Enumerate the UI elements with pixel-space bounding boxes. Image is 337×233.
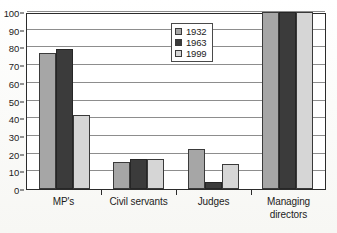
bar-1999-managing-directors: [296, 12, 313, 189]
legend-swatch-1999: [175, 50, 182, 57]
y-axis: 1009080706050403020100: [0, 13, 24, 190]
group-tick: [176, 190, 177, 195]
legend-swatch-1932: [175, 28, 182, 35]
y-tick-label: 30: [9, 131, 19, 142]
x-category-label-line1: Civil servants: [109, 196, 167, 207]
y-tick-label: 100: [4, 8, 19, 19]
bar-1999-judges: [222, 164, 239, 189]
y-tick-label: 20: [9, 149, 19, 160]
bar-1932-managing-directors: [262, 12, 279, 189]
y-tick-mark: [20, 190, 24, 191]
y-tick-mark: [20, 48, 24, 49]
y-tick-label: 80: [9, 43, 19, 54]
bar-1963-civil-servants: [130, 159, 147, 189]
y-tick-mark: [20, 66, 24, 67]
legend-label: 1932: [186, 26, 206, 37]
bar-1999-mp-s: [73, 115, 90, 189]
group-tick: [101, 190, 102, 195]
y-tick-mark: [20, 13, 24, 14]
legend-item: 1932: [175, 26, 206, 37]
x-category-label-line2: directors: [251, 209, 326, 222]
legend-label: 1999: [186, 48, 206, 59]
bar-1963-judges: [205, 182, 222, 189]
y-tick-mark: [20, 101, 24, 102]
bar-1999-civil-servants: [147, 159, 164, 189]
y-tick-mark: [20, 30, 24, 31]
x-category-label: Managingdirectors: [251, 196, 326, 232]
bar-1963-mp-s: [56, 49, 73, 189]
x-category-label-line1: Managing: [267, 196, 310, 207]
bar-1932-civil-servants: [113, 162, 130, 189]
y-tick-mark: [20, 172, 24, 173]
x-axis-group-ticks: [26, 190, 326, 195]
x-category-label: MP's: [26, 196, 101, 232]
y-tick-label: 40: [9, 114, 19, 125]
bar-group: [27, 14, 102, 189]
bar-1963-managing-directors: [279, 12, 296, 189]
y-tick-label: 0: [14, 185, 19, 196]
bar-group: [251, 14, 326, 189]
y-tick-mark: [20, 136, 24, 137]
chart-legend: 193219631999: [171, 23, 213, 62]
legend-item: 1999: [175, 48, 206, 59]
y-tick-label: 10: [9, 167, 19, 178]
x-category-label-line1: Judges: [198, 196, 230, 207]
bar-1932-judges: [188, 149, 205, 189]
group-tick: [251, 190, 252, 195]
y-tick-label: 50: [9, 96, 19, 107]
x-category-label: Judges: [176, 196, 251, 232]
legend-label: 1963: [186, 37, 206, 48]
x-axis-labels: MP'sCivil servantsJudgesManagingdirector…: [26, 196, 326, 232]
y-tick-mark: [20, 83, 24, 84]
bar-chart-figure: 1009080706050403020100 MP'sCivil servant…: [0, 0, 337, 233]
y-tick-label: 60: [9, 78, 19, 89]
y-tick-mark: [20, 119, 24, 120]
y-tick-label: 90: [9, 25, 19, 36]
y-tick-mark: [20, 154, 24, 155]
y-tick-label: 70: [9, 61, 19, 72]
legend-swatch-1963: [175, 39, 182, 46]
bar-group: [102, 14, 177, 189]
bar-1932-mp-s: [39, 53, 56, 189]
x-category-label-line1: MP's: [53, 196, 75, 207]
legend-item: 1963: [175, 37, 206, 48]
x-category-label: Civil servants: [101, 196, 176, 232]
